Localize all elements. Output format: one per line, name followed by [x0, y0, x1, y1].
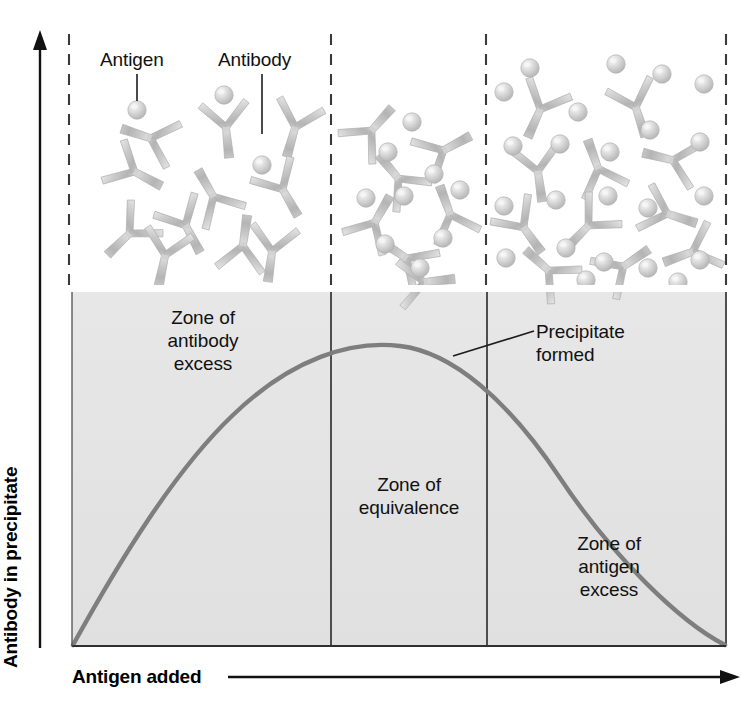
zone-antigen-excess-line1: Zone of [536, 532, 682, 555]
zone-antibody-excess-line3: excess [130, 352, 276, 375]
antigen-callout-label: Antigen [100, 48, 186, 71]
precipitate-formed-line2: formed [536, 343, 696, 366]
y-axis-arrowhead [33, 30, 47, 50]
panel-right-gap [727, 292, 756, 652]
antibody-callout-label: Antibody [218, 48, 322, 71]
specimen-antibody-excess [90, 86, 328, 291]
precipitin-curve-figure: Antigen Antibody Zone of antibody excess… [0, 0, 756, 712]
specimen-equivalence [335, 91, 484, 311]
zone-antibody-excess-line1: Zone of [130, 306, 276, 329]
zone-antigen-excess-line2: antigen [536, 555, 682, 578]
panel-top-gap [0, 285, 756, 292]
x-axis [228, 670, 740, 684]
specimen-antigen-excess [487, 55, 726, 308]
zone-equivalence-line2: equivalence [334, 496, 484, 519]
zone-antibody-excess-line2: antibody [130, 329, 276, 352]
zone-equivalence-line1: Zone of [334, 473, 484, 496]
zone-antigen-excess-line3: excess [536, 578, 682, 601]
x-axis-title: Antigen added [72, 666, 201, 688]
y-axis-title: Antibody in precipitate [0, 418, 22, 668]
precipitate-formed-line1: Precipitate [536, 320, 696, 343]
x-axis-arrowhead [720, 670, 740, 684]
